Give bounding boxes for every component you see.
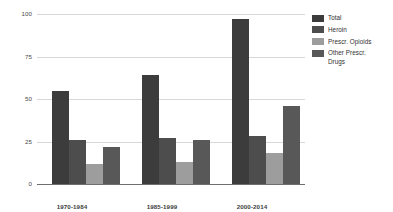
bar-group-1970-1984: [52, 14, 122, 184]
legend-item-prescr-opioids: Prescr. Opioids: [312, 38, 390, 46]
bar-heroin-1970-1984: [69, 140, 86, 184]
y-tick-label-75: 75: [25, 53, 32, 59]
legend-item-total: Total: [312, 14, 390, 22]
chart-legend: Total Heroin Prescr. Opioids Other Presc…: [312, 14, 390, 69]
x-axis-line: 0: [37, 184, 305, 185]
legend-item-heroin: Heroin: [312, 26, 390, 34]
bar-prescr-opioids-1985-1999: [176, 162, 193, 184]
bar-total-1970-1984: [52, 91, 69, 185]
y-tick-label-50: 50: [25, 96, 32, 102]
legend-label-prescr-opioids: Prescr. Opioids: [328, 38, 371, 46]
bar-heroin-1985-1999: [159, 138, 176, 184]
legend-swatch-other-prescr-drugs: [312, 50, 324, 57]
legend-label-heroin: Heroin: [328, 26, 347, 34]
bar-prescr-opioids-2000-2014: [266, 153, 283, 184]
y-tick-label-0: 0: [28, 181, 32, 187]
y-tick-label-25: 25: [25, 138, 32, 144]
legend-label-other-prescr-drugs: Other Prescr. Drugs: [328, 49, 366, 65]
plot-area: 100 75 50 25 0: [37, 14, 305, 185]
x-tick-label-1970-1984: 1970-1984: [27, 204, 117, 210]
y-tick-label-100: 100: [21, 11, 32, 17]
bar-chart-figure: 100 75 50 25 0: [0, 0, 393, 212]
bars-layer: [37, 14, 305, 184]
legend-item-other-prescr-drugs: Other Prescr. Drugs: [312, 49, 390, 65]
x-tick-label-1985-1999: 1985-1999: [117, 204, 207, 210]
bar-total-2000-2014: [232, 19, 249, 184]
legend-label-total: Total: [328, 14, 342, 22]
bar-total-1985-1999: [142, 75, 159, 184]
bar-prescr-opioids-1970-1984: [86, 164, 103, 184]
bar-group-2000-2014: [232, 14, 302, 184]
legend-swatch-total: [312, 15, 324, 22]
bar-heroin-2000-2014: [249, 136, 266, 184]
bar-other-prescr-drugs-1970-1984: [103, 147, 120, 184]
bar-group-1985-1999: [142, 14, 212, 184]
legend-swatch-heroin: [312, 26, 324, 33]
bar-other-prescr-drugs-2000-2014: [283, 106, 300, 184]
x-tick-label-2000-2014: 2000-2014: [207, 204, 297, 210]
legend-swatch-prescr-opioids: [312, 38, 324, 45]
bar-other-prescr-drugs-1985-1999: [193, 140, 210, 184]
